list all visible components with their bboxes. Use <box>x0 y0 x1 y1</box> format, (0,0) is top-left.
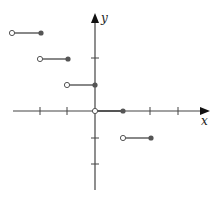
y-axis-label: y <box>100 11 108 25</box>
closed-dots <box>38 30 153 140</box>
open-dots <box>9 30 125 140</box>
step-segments <box>12 33 151 138</box>
step-function-graph: x y <box>0 0 220 201</box>
x-axis-label: x <box>201 114 208 128</box>
y-axis-arrow-icon <box>91 13 99 23</box>
